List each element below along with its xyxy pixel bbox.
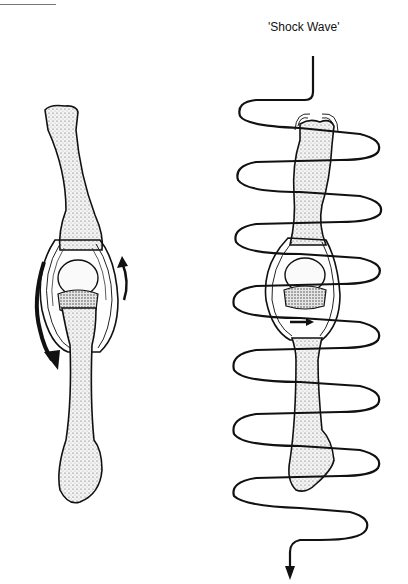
shock-wave-arrowhead-icon: [285, 566, 295, 580]
left-finger-bone: [40, 106, 118, 503]
illustration-canvas: [0, 0, 408, 584]
rotation-arrow-large-icon: [37, 262, 60, 370]
right-finger-bone: [265, 114, 340, 491]
rotation-arrow-small-icon: [117, 256, 128, 300]
